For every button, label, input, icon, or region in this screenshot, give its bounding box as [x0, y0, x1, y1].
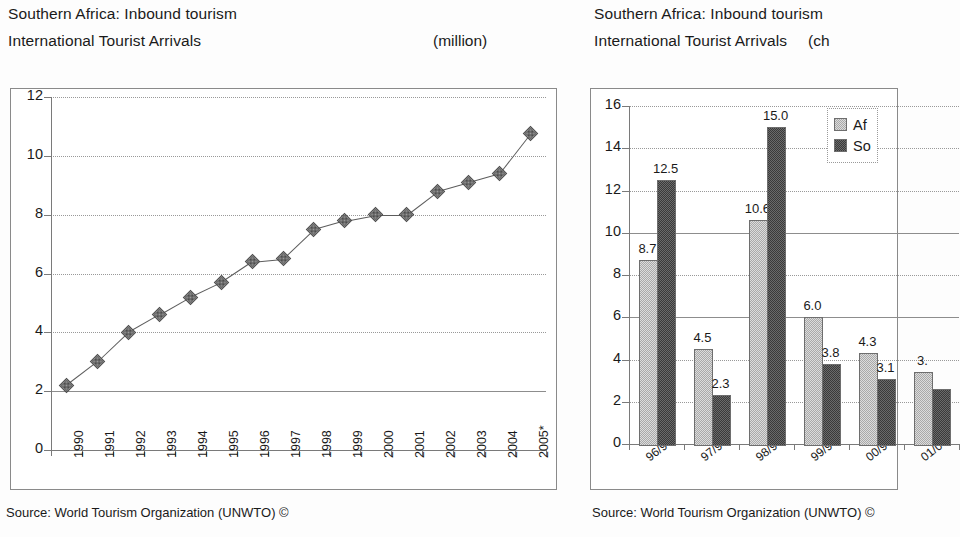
bar-af-96-95: [639, 260, 658, 446]
y-tick: [622, 444, 629, 445]
line-segment: [499, 134, 531, 174]
y-axis-label: 16: [593, 96, 621, 112]
x-axis-label: 1990: [72, 430, 86, 458]
bar-so-97-96: [712, 395, 731, 446]
right-chart-source: Source: World Tourism Organization (UNWT…: [592, 505, 875, 520]
y-gridline: [629, 402, 959, 403]
y-axis-label: 8: [15, 205, 43, 221]
y-gridline: [629, 191, 959, 192]
data-point-marker: [368, 207, 384, 223]
left-chart-units-label: (million): [433, 32, 487, 50]
y-axis-label: 0: [593, 434, 621, 450]
right-chart-units-label: (ch: [808, 32, 830, 50]
data-point-marker: [244, 254, 260, 270]
y-tick: [622, 106, 629, 107]
y-tick: [622, 360, 629, 361]
y-axis-label: 2: [15, 381, 43, 397]
bar-value-label: 6.0: [795, 298, 831, 313]
x-tick: [849, 444, 850, 450]
y-tick: [622, 148, 629, 149]
y-axis-label: 4: [15, 322, 43, 338]
left-chart-source: Source: World Tourism Organization (UNWT…: [6, 505, 289, 520]
y-tick: [44, 156, 51, 157]
y-tick: [44, 97, 51, 98]
y-gridline: [629, 233, 959, 234]
legend-label: So: [853, 138, 871, 154]
y-gridline: [51, 215, 546, 216]
right-chart-panel: Southern Africa: Inbound tourism Interna…: [586, 0, 896, 537]
y-axis-label: 14: [593, 138, 621, 154]
x-axis-label: 1996: [258, 430, 272, 458]
legend-swatch-af: [834, 118, 847, 131]
x-axis-label: 1992: [134, 430, 148, 458]
right-chart-plot-area: 024681012141696/958.712.597/964.52.398/9…: [629, 106, 959, 444]
bar-af-99-98: [804, 317, 823, 446]
y-axis-label: 10: [593, 223, 621, 239]
x-axis-label: 2005*: [537, 425, 551, 458]
y-gridline: [51, 156, 546, 157]
data-point-marker: [461, 175, 477, 191]
x-tick: [739, 444, 740, 450]
y-tick: [622, 317, 629, 318]
x-axis-label: 1991: [103, 430, 117, 458]
y-axis-label: 8: [593, 265, 621, 281]
y-axis-label: 2: [593, 392, 621, 408]
y-axis-label: 10: [15, 146, 43, 162]
x-tick: [794, 444, 795, 450]
x-axis-label: 1994: [196, 430, 210, 458]
left-chart-plot-area: 0246810121990199119921993199419951996199…: [51, 97, 546, 450]
y-axis-label: 0: [15, 440, 43, 456]
bar-so-01-00: [932, 389, 951, 446]
x-tick: [684, 444, 685, 450]
x-axis-label: 2002: [444, 430, 458, 458]
bar-af-98-97: [749, 220, 768, 446]
y-tick: [44, 450, 51, 451]
y-axis-label: 6: [593, 307, 621, 323]
bar-value-label: 2.3: [703, 376, 739, 391]
bar-value-label: 4.5: [685, 330, 721, 345]
x-axis-label: 2004: [506, 430, 520, 458]
x-axis-label: 2000: [382, 430, 396, 458]
y-tick: [622, 275, 629, 276]
y-gridline: [51, 274, 546, 275]
right-chart-plot-frame: 024681012141696/958.712.597/964.52.398/9…: [590, 88, 898, 490]
bar-so-96-95: [657, 180, 676, 446]
x-axis-label: 1995: [227, 430, 241, 458]
bar-so-98-97: [767, 127, 786, 446]
left-chart-panel: Southern Africa: Inbound tourism Interna…: [0, 0, 580, 537]
y-tick: [622, 191, 629, 192]
x-tick: [51, 450, 52, 456]
data-point-marker: [152, 307, 168, 323]
y-axis-label: 12: [15, 87, 43, 103]
bar-so-00-99: [877, 379, 896, 446]
data-point-marker: [492, 166, 508, 182]
y-tick: [44, 215, 51, 216]
bar-value-label: 15.0: [758, 108, 794, 123]
chart-legend: AfSo: [827, 108, 878, 163]
y-gridline: [51, 391, 546, 392]
right-chart-title-line1: Southern Africa: Inbound tourism: [594, 5, 823, 23]
y-tick: [622, 402, 629, 403]
bar-af-97-96: [694, 349, 713, 446]
bar-value-label: 3.1: [868, 360, 904, 375]
left-chart-title-line1: Southern Africa: Inbound tourism: [8, 5, 237, 23]
y-tick: [44, 274, 51, 275]
x-axis-label: 1993: [165, 430, 179, 458]
y-gridline: [629, 106, 959, 107]
y-gridline: [629, 148, 959, 149]
bar-value-label: 3.8: [813, 345, 849, 360]
legend-row: Af: [834, 114, 871, 135]
x-axis-label: 2003: [475, 430, 489, 458]
x-axis-label: 2001: [413, 430, 427, 458]
legend-label: Af: [853, 117, 867, 133]
x-axis-label: 1998: [320, 430, 334, 458]
bar-so-99-98: [822, 364, 841, 446]
bar-value-label: 3.: [905, 353, 941, 368]
bar-value-label: 12.5: [648, 161, 684, 176]
y-axis-line: [51, 97, 52, 450]
x-tick: [904, 444, 905, 450]
y-tick: [622, 233, 629, 234]
y-tick: [44, 391, 51, 392]
y-axis-label: 12: [593, 181, 621, 197]
bar-value-label: 4.3: [850, 334, 886, 349]
